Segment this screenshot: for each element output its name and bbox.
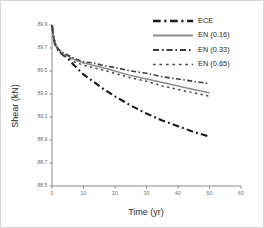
y-tick-label: 89.3 [37, 90, 47, 96]
legend-label-en-0-16: EN (0.16) [198, 30, 230, 39]
y-axis-title: Shear (kN) [10, 84, 20, 128]
x-tick-label: 20 [112, 190, 118, 196]
y-tick-label: 89.9 [37, 21, 47, 27]
x-tick-label: 60 [238, 190, 244, 196]
x-tick-label: 30 [144, 190, 150, 196]
legend-label-en-0-33: EN (0.33) [198, 45, 230, 54]
y-tick-label: 89.5 [37, 67, 47, 73]
x-axis-ticks: 0102030405060 [51, 186, 244, 196]
legend-label-ece: ECE [198, 16, 213, 25]
x-tick-label: 40 [175, 190, 181, 196]
y-tick-label: 88.7 [37, 159, 47, 165]
data-series-group [52, 25, 210, 137]
chart-svg: 88.588.788.989.189.389.589.789.9 0102030… [1, 1, 264, 228]
y-axis-ticks: 88.588.788.989.189.389.589.789.9 [37, 21, 52, 188]
chart-figure: 88.588.788.989.189.389.589.789.9 0102030… [0, 0, 264, 228]
y-tick-label: 89.7 [37, 44, 47, 50]
y-tick-label: 89.1 [37, 113, 47, 119]
legend-label-en-0-65: EN (0.65) [198, 59, 230, 68]
series-line-ece [52, 25, 210, 137]
y-tick-label: 88.5 [37, 182, 47, 188]
x-tick-label: 50 [207, 190, 213, 196]
x-tick-label: 10 [81, 190, 87, 196]
y-tick-label: 88.9 [37, 136, 47, 142]
chart-legend: ECEEN (0.16)EN (0.33)EN (0.65) [153, 16, 230, 69]
x-axis-title: Time (yr) [128, 207, 164, 217]
x-tick-label: 0 [51, 190, 54, 196]
